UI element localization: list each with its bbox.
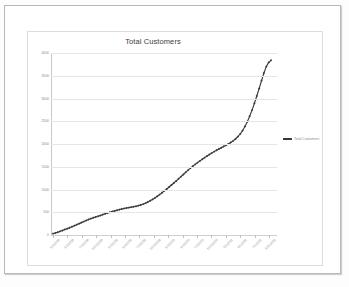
data-point-marker [137, 204, 139, 206]
y-axis-tick-label: 1000 [41, 188, 49, 192]
plot-area [51, 53, 277, 235]
data-point-marker [123, 207, 125, 209]
x-axis-tick-label: 10/1/2009 [149, 238, 162, 251]
data-point-marker [125, 207, 127, 209]
x-axis-tick-label: 7/1/2010 [193, 238, 205, 250]
screenshot-root: Total Customers 400035003000250020001500… [0, 0, 349, 287]
data-point-marker [121, 208, 123, 210]
chart-legend: Total Customers [283, 137, 319, 141]
data-point-marker [135, 205, 137, 207]
data-point-marker [118, 208, 120, 210]
x-axis-tick-label: 4/1/2011 [237, 238, 248, 249]
y-axis-labels: 40003500300025002000150010005000 [28, 53, 49, 235]
gridline [51, 144, 277, 145]
data-point-marker [130, 206, 132, 208]
y-axis-tick-label: 3000 [41, 97, 49, 101]
series-line [53, 60, 271, 233]
x-axis-tick-label: 7/1/2009 [136, 238, 148, 250]
x-axis-tick-label: 7/1/2008 [78, 238, 90, 250]
gridline [51, 167, 277, 168]
y-axis-tick-label: 1500 [41, 165, 49, 169]
y-axis-tick-label: 4000 [41, 51, 49, 55]
x-axis-tick-label: 1/1/2011 [222, 238, 233, 249]
gridline [51, 53, 277, 54]
y-axis-tick-label: 500 [43, 210, 49, 214]
gridline [51, 190, 277, 191]
x-axis-tick-label: 10/1/2008 [91, 238, 104, 251]
data-point-marker [128, 206, 130, 208]
y-axis-tick-label: 3500 [41, 74, 49, 78]
legend-label: Total Customers [294, 137, 319, 141]
data-point-marker [260, 80, 262, 82]
y-axis-tick-label: 2000 [41, 142, 49, 146]
x-axis-tick-label: 10/1/2010 [206, 238, 219, 251]
y-axis-tick-label: 0 [47, 233, 49, 237]
x-axis-tick-label: 10/1/2011 [264, 238, 277, 251]
chart-object[interactable]: Total Customers 400035003000250020001500… [27, 31, 323, 266]
x-axis-tick-label: 4/1/2009 [121, 238, 133, 250]
y-axis-tick-label: 2500 [41, 119, 49, 123]
gridline [51, 99, 277, 100]
x-axis-tick-label: 1/1/2009 [107, 238, 119, 250]
gridline [51, 76, 277, 77]
x-axis-tick-label: 1/1/2010 [164, 238, 176, 250]
gridline [51, 121, 277, 122]
x-axis-tick-label: 7/1/2011 [251, 238, 262, 249]
chart-title: Total Customers [28, 37, 278, 46]
document-page-frame: Total Customers 400035003000250020001500… [4, 5, 341, 274]
x-axis-labels: 1/1/20084/1/20087/1/200810/1/20081/1/200… [51, 238, 291, 268]
x-axis-tick-label: 4/1/2010 [179, 238, 191, 250]
data-point-marker [132, 205, 134, 207]
gridline [51, 212, 277, 213]
data-point-marker [116, 209, 118, 211]
legend-line-swatch [283, 138, 292, 140]
x-axis-tick-label: 1/1/2008 [49, 238, 61, 250]
x-axis-tick-label: 4/1/2008 [64, 238, 76, 250]
